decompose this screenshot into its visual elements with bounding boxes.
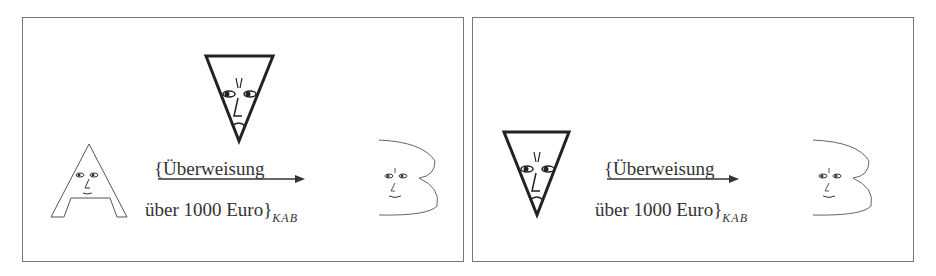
arrow-head-icon [729,175,739,183]
eavesdropper-triangle-icon [206,56,273,141]
message-line-1: {Überweisung [154,159,264,178]
key-subscript: KAB [272,211,298,225]
bob-letter-b-icon [813,140,872,215]
arrow-head-icon [295,175,305,183]
bob-letter-b-icon [379,140,438,215]
message-line-1: {Überweisung [604,159,714,178]
left-panel-drawing [23,18,465,263]
right-scenario-panel: {Überweisung über 1000 Euro}KAB [472,17,914,262]
left-scenario-panel: {Überweisung über 1000 Euro}KAB [22,17,464,262]
message-line-2: über 1000 Euro}KAB [595,200,748,219]
message-line-2-text: über 1000 Euro} [145,199,272,220]
message-line-2-text: über 1000 Euro} [595,199,722,220]
alice-letter-a-icon [51,144,127,217]
right-panel-drawing [473,18,915,263]
message-line-2: über 1000 Euro}KAB [145,200,298,219]
key-subscript: KAB [722,211,748,225]
eavesdropper-triangle-icon [504,132,569,215]
